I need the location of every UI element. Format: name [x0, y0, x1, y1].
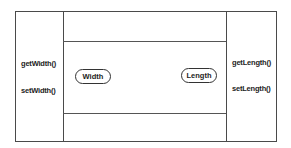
method-set-width: setWidth() [21, 86, 56, 95]
data-region-bottom-border [63, 113, 226, 114]
class-boundary [15, 11, 277, 142]
method-get-width: getWidth() [21, 59, 56, 68]
left-method-divider [63, 11, 64, 142]
method-get-length: getLength() [232, 58, 271, 67]
attribute-length: Length [181, 68, 217, 83]
attribute-width: Width [75, 69, 111, 84]
method-set-length: setLength() [232, 84, 271, 93]
data-region-top-border [63, 41, 226, 42]
right-method-divider [226, 11, 227, 142]
